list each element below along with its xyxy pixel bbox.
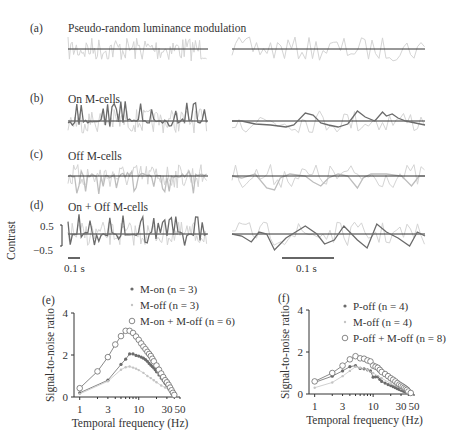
svg-text:P-off + M-off (n = 8): P-off + M-off (n = 8) xyxy=(353,332,446,345)
svg-text:M-off (n = 3): M-off (n = 3) xyxy=(140,299,199,312)
svg-text:M-off (n = 4): M-off (n = 4) xyxy=(353,316,412,329)
svg-text:10: 10 xyxy=(368,400,380,412)
svg-text:Signal-to-noise ratio: Signal-to-noise ratio xyxy=(44,308,57,402)
svg-text:3: 3 xyxy=(340,400,346,412)
svg-text:Temporal frequency (Hz): Temporal frequency (Hz) xyxy=(72,417,189,430)
chart-e: 02413103050Temporal frequency (Hz)Signal… xyxy=(44,283,235,430)
svg-text:2: 2 xyxy=(63,349,69,361)
figure-canvas: 02413103050Temporal frequency (Hz)Signal… xyxy=(0,0,456,448)
chart-f: 02413103050Temporal frequency (Hz)Signal… xyxy=(279,300,446,427)
svg-text:3: 3 xyxy=(105,403,111,415)
svg-text:4: 4 xyxy=(298,304,304,316)
svg-text:P-off (n = 4): P-off (n = 4) xyxy=(353,300,409,313)
traces-group xyxy=(60,37,425,258)
svg-text:10: 10 xyxy=(133,403,145,415)
svg-text:Temporal frequency (Hz): Temporal frequency (Hz) xyxy=(306,414,423,427)
svg-text:50: 50 xyxy=(175,403,187,415)
svg-text:Signal-to-noise ratio: Signal-to-noise ratio xyxy=(279,305,292,399)
svg-text:50: 50 xyxy=(409,400,421,412)
svg-text:M-on (n = 3): M-on (n = 3) xyxy=(140,283,198,296)
svg-text:2: 2 xyxy=(298,346,304,358)
svg-text:4: 4 xyxy=(63,307,69,319)
svg-text:30: 30 xyxy=(161,403,173,415)
svg-text:1: 1 xyxy=(312,400,318,412)
svg-text:0: 0 xyxy=(63,391,69,403)
svg-text:30: 30 xyxy=(396,400,408,412)
svg-text:1: 1 xyxy=(77,403,83,415)
svg-text:M-on + M-off (n = 6): M-on + M-off (n = 6) xyxy=(140,315,235,328)
svg-text:0: 0 xyxy=(298,388,304,400)
